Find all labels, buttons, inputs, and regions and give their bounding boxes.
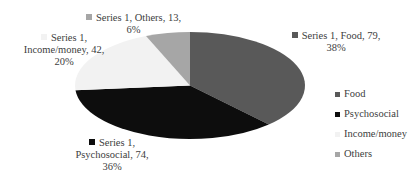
others-legend-swatch-icon	[335, 152, 340, 157]
food-marker-icon	[292, 32, 298, 38]
data-label-psychosocial: Series 1, Psychosocial, 74, 36%	[62, 137, 162, 173]
legend-item-income-money: Income/money	[335, 124, 407, 144]
legend-item-others: Others	[335, 144, 407, 164]
data-label-others: Series 1, Others, 13, 6%	[76, 12, 191, 36]
data-label-food: Series 1, Food, 79, 38%	[276, 30, 396, 54]
income-money-marker-icon	[41, 34, 47, 40]
legend-item-psychosocial: Psychosocial	[335, 104, 407, 124]
income-money-legend-swatch-icon	[335, 132, 340, 137]
legend-item-food: Food	[335, 84, 407, 104]
chart-legend: Food Psychosocial Income/money Others	[335, 84, 407, 164]
others-marker-icon	[86, 14, 92, 20]
food-legend-swatch-icon	[335, 92, 340, 97]
data-label-income-money: Series 1, Income/money, 42, 20%	[14, 32, 114, 68]
psychosocial-legend-swatch-icon	[335, 112, 340, 117]
psychosocial-marker-icon	[89, 139, 95, 145]
